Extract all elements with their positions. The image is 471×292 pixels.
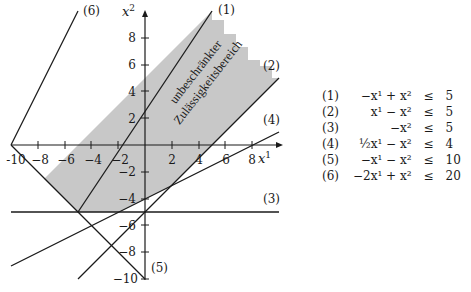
constraint-row: (4) ½x¹ − x² ≤ 4 <box>318 136 465 152</box>
constraint-number: (6) <box>318 168 349 184</box>
line-label-4: (4) <box>263 113 280 127</box>
constraint-expression: −2x¹ + x² <box>349 168 416 184</box>
line-label-2: (2) <box>263 59 280 73</box>
constraint-line-6 <box>11 11 78 145</box>
y-tick-label: −6 <box>118 219 136 233</box>
lp-diagram: -10 −8 −6 −4 −2 2 4 6 8 8 6 4 2 −2 −4 −6… <box>0 0 300 292</box>
constraint-rhs: 20 <box>442 168 465 184</box>
constraint-rhs: 4 <box>442 136 465 152</box>
y-tick-label: 4 <box>128 85 136 99</box>
constraint-rhs: 10 <box>442 152 465 168</box>
constraint-number: (3) <box>318 120 349 136</box>
line-label-6: (6) <box>83 4 100 18</box>
y-tick-label: 6 <box>128 58 136 72</box>
constraint-expression: ½x¹ − x² <box>349 136 416 152</box>
constraint-relation: ≤ <box>416 136 442 152</box>
constraint-number: (2) <box>318 104 349 120</box>
x-tick-label: −6 <box>57 153 75 167</box>
x-axis-label: x1 <box>258 150 271 166</box>
constraint-number: (5) <box>318 152 349 168</box>
y-tick-label: −4 <box>118 192 136 206</box>
y-axis-label: x2 <box>122 3 135 19</box>
line-label-3: (3) <box>263 192 280 206</box>
constraint-expression: −x² <box>349 120 416 136</box>
constraint-expression: x¹ − x² <box>349 104 416 120</box>
constraint-row: (6) −2x¹ + x² ≤ 20 <box>318 168 465 184</box>
line-label-1: (1) <box>218 3 235 17</box>
constraint-number: (4) <box>318 136 349 152</box>
constraint-relation: ≤ <box>416 152 442 168</box>
x-tick-label: 4 <box>195 153 203 167</box>
constraint-expression: −x¹ − x² <box>349 152 416 168</box>
y-tick-label: 2 <box>128 112 136 126</box>
x-tick-label: -10 <box>6 153 25 167</box>
constraint-relation: ≤ <box>416 168 442 184</box>
constraint-row: (3) −x² ≤ 5 <box>318 120 465 136</box>
constraint-row: (1) −x¹ + x² ≤ 5 <box>318 88 465 104</box>
constraint-expression: −x¹ + x² <box>349 88 416 104</box>
x-tick-label: −4 <box>84 153 102 167</box>
constraint-number: (1) <box>318 88 349 104</box>
x-tick-label: −8 <box>31 153 49 167</box>
y-tick-label: −10 <box>113 272 138 286</box>
y-tick-label: −2 <box>118 165 136 179</box>
line-label-5: (5) <box>151 261 168 275</box>
x-tick-label: 2 <box>168 153 176 167</box>
feasible-region <box>44 11 279 212</box>
constraint-table: (1) −x¹ + x² ≤ 5 (2) x¹ − x² ≤ 5 (3) −x²… <box>318 88 465 184</box>
x-tick-label: 8 <box>248 153 256 167</box>
constraint-rhs: 5 <box>442 104 465 120</box>
constraint-row: (2) x¹ − x² ≤ 5 <box>318 104 465 120</box>
constraint-relation: ≤ <box>416 120 442 136</box>
y-tick-label: −8 <box>118 245 136 259</box>
y-tick-label: 8 <box>128 31 136 45</box>
x-tick-label: 6 <box>222 153 230 167</box>
constraint-row: (5) −x¹ − x² ≤ 10 <box>318 152 465 168</box>
constraint-rhs: 5 <box>442 120 465 136</box>
constraint-relation: ≤ <box>416 88 442 104</box>
constraint-relation: ≤ <box>416 104 442 120</box>
constraint-rhs: 5 <box>442 88 465 104</box>
